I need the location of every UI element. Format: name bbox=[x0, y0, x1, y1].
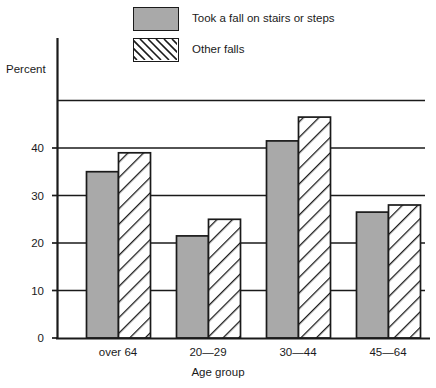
x-axis-title: Age group bbox=[0, 366, 436, 378]
bar-over-64-other bbox=[119, 153, 151, 338]
y-tick-label-40: 40 bbox=[10, 143, 44, 155]
bar-over-64-stairs bbox=[87, 172, 119, 338]
y-tick-label-20: 20 bbox=[10, 238, 44, 250]
bar-chart-figure: Took a fall on stairs or steps bbox=[0, 0, 436, 388]
x-tick-label-over-64: over 64 bbox=[78, 347, 158, 359]
bar-45-64-stairs bbox=[357, 212, 389, 338]
x-tick-label-30-44: 30—44 bbox=[258, 347, 338, 359]
x-tick-label-45-64: 45—64 bbox=[348, 347, 428, 359]
bar-20-29-stairs bbox=[177, 236, 209, 338]
y-tick-label-30: 30 bbox=[10, 191, 44, 203]
bar-30-44-stairs bbox=[267, 141, 299, 338]
plot-area: Percent 0 10 20 30 40 over 64 20—29 30—4… bbox=[0, 0, 436, 388]
y-axis-title: Percent bbox=[6, 63, 46, 75]
y-tick-label-10: 10 bbox=[10, 286, 44, 298]
bar-30-44-other bbox=[299, 117, 331, 338]
chart-canvas bbox=[0, 0, 436, 388]
bar-45-64-other bbox=[389, 205, 421, 338]
x-tick-label-20-29: 20—29 bbox=[168, 347, 248, 359]
y-tick-label-0: 0 bbox=[10, 333, 44, 345]
y-tick-marks bbox=[52, 148, 57, 338]
bar-20-29-other bbox=[209, 219, 241, 338]
